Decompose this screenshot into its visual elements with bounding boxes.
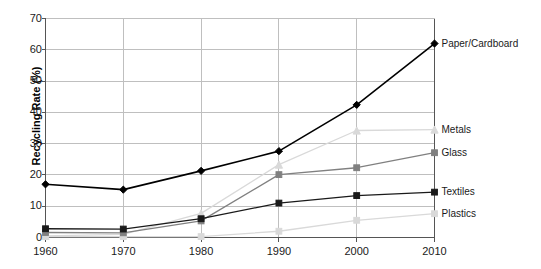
series-label-textiles: Textiles	[442, 187, 475, 197]
x-tick-label: 2010	[411, 245, 459, 257]
x-tick-label: 1990	[255, 245, 303, 257]
x-tick-label: 1980	[177, 245, 225, 257]
series-label-plastics: Plastics	[442, 209, 476, 219]
recycling-rate-line-chart: Recycling Rate (%) 010203040506070 19601…	[0, 0, 541, 269]
x-tick-label: 1970	[99, 245, 147, 257]
series-label-metals: Metals	[442, 125, 471, 135]
series-label-paper-cardboard: Paper/Cardboard	[442, 39, 519, 49]
series-label-glass: Glass	[442, 148, 468, 158]
x-tick-label: 1960	[22, 245, 70, 257]
x-tick-label: 2000	[333, 245, 381, 257]
